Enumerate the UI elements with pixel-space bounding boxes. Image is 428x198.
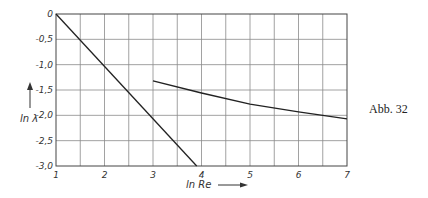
y-tick-label: -0,5 [35, 34, 53, 44]
y-axis-arrowhead-icon [27, 82, 33, 90]
y-axis-label: ln λ [20, 113, 38, 124]
x-tick-label: 3 [150, 170, 156, 180]
x-tick-label: 6 [296, 170, 302, 180]
x-axis-label: ln Re [186, 179, 211, 190]
chart: 0-0,5-1,0-1,5-2,0-2,5-3,0 1234567 ln λ l… [0, 0, 428, 198]
x-axis-arrowhead-icon [240, 183, 248, 188]
x-axis-label-group: ln Re [186, 179, 248, 190]
y-tick-label: -1,5 [35, 85, 53, 95]
figure-caption: Abb. 32 [369, 102, 408, 117]
x-tick-label: 5 [247, 170, 253, 180]
x-tick-label: 1 [53, 170, 59, 180]
y-tick-labels: 0-0,5-1,0-1,5-2,0-2,5-3,0 [35, 9, 53, 171]
x-tick-label: 7 [344, 170, 350, 180]
y-tick-label: -3,0 [35, 161, 53, 171]
y-tick-label: 0 [47, 9, 53, 19]
grid-lines [56, 14, 347, 166]
y-tick-label: -1,0 [35, 60, 53, 70]
x-tick-label: 2 [102, 170, 108, 180]
y-tick-label: -2,5 [35, 136, 53, 146]
